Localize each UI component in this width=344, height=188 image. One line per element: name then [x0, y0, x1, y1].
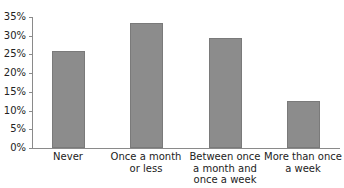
- y-tick-label: 25%: [0, 49, 26, 59]
- x-category-label: Between once a month and once a week: [185, 151, 265, 186]
- y-tick-label: 5%: [0, 124, 26, 134]
- y-tick-mark: [29, 148, 33, 149]
- y-tick-label: 10%: [0, 106, 26, 116]
- bar-chart: 0%5%10%15%20%25%30%35% NeverOnce a month…: [0, 0, 344, 188]
- y-tick-mark: [29, 92, 33, 93]
- y-tick-label: 0%: [0, 143, 26, 153]
- y-tick-mark: [29, 54, 33, 55]
- bar: [52, 51, 85, 148]
- bar: [209, 38, 242, 148]
- y-tick-label: 20%: [0, 68, 26, 78]
- x-category-label: Never: [28, 151, 108, 163]
- bar: [130, 23, 163, 148]
- y-tick-label: 15%: [0, 87, 26, 97]
- y-tick-mark: [29, 111, 33, 112]
- x-axis: [32, 148, 340, 149]
- bar: [287, 101, 320, 148]
- y-tick-label: 35%: [0, 12, 26, 22]
- y-tick-label: 30%: [0, 31, 26, 41]
- x-category-label: More than once a week: [263, 151, 343, 174]
- y-tick-mark: [29, 129, 33, 130]
- y-tick-mark: [29, 36, 33, 37]
- x-category-label: Once a month or less: [106, 151, 186, 174]
- y-tick-mark: [29, 17, 33, 18]
- y-tick-mark: [29, 73, 33, 74]
